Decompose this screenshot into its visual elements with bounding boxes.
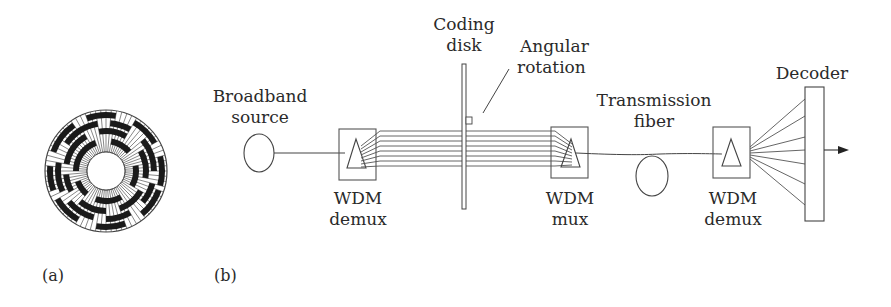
wdm-demux-1-label-1: WDM (334, 188, 383, 208)
wdm-demux-1-label-2: demux (329, 209, 387, 229)
wdm-mux-label-1: WDM (546, 188, 595, 208)
wdm-demux-2-label-2: demux (704, 209, 762, 229)
coding-disk-plate (462, 64, 466, 209)
coding-disk-pattern (45, 110, 167, 232)
broadband-source-icon (244, 134, 274, 172)
wdm-demux-2-label-1: WDM (709, 188, 758, 208)
decoder-block (805, 87, 824, 221)
figure: (a) (b) Broadband source WDM demux Codin… (0, 0, 891, 307)
decoder-fanout (750, 99, 805, 205)
output-arrow-icon (838, 146, 849, 154)
transmission-fiber-label-1: Transmission (597, 90, 712, 110)
coding-disk-label-1: Coding (433, 14, 495, 34)
caption-a: (a) (42, 266, 64, 285)
broadband-source-label-1: Broadband (213, 86, 308, 106)
wdm-mux-label-2: mux (552, 209, 589, 229)
coding-disk-label-2: disk (446, 35, 482, 55)
transmission-fiber-coil (636, 156, 668, 196)
caption-b: (b) (214, 266, 237, 285)
angular-rotation-label-1: Angular (519, 36, 590, 56)
wdm-mux (551, 127, 588, 178)
decoder-label: Decoder (776, 63, 849, 83)
broadband-source-label-2: source (231, 107, 289, 127)
transmission-fiber-label-2: fiber (634, 111, 675, 131)
angular-rotation-label-2: rotation (517, 57, 586, 77)
wdm-demux-2 (713, 127, 750, 178)
